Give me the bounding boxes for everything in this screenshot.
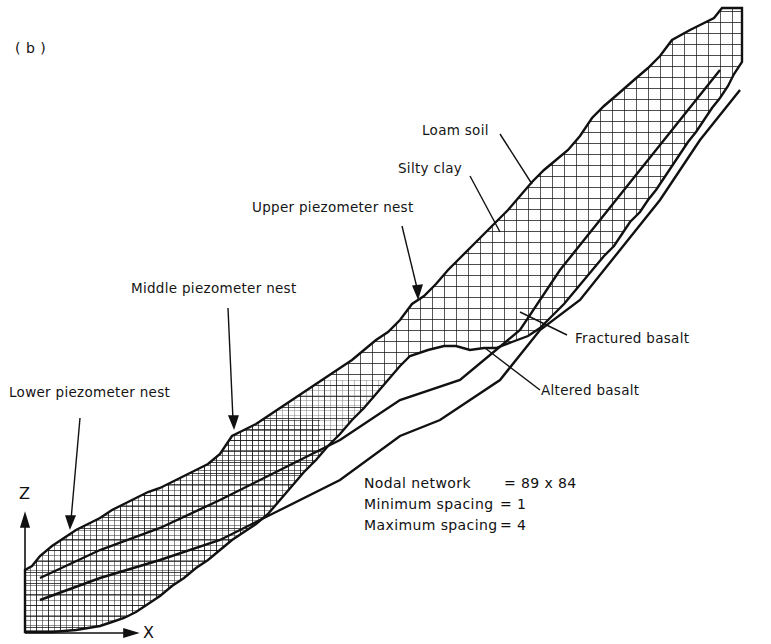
z-axis-label: Z [19, 484, 30, 503]
label-silty-clay: Silty clay [398, 160, 462, 176]
label-fractured-basalt: Fractured basalt [575, 330, 689, 346]
info-key: Maximum spacing [364, 515, 500, 536]
info-key: Nodal network [364, 473, 504, 494]
mesh-grid [0, 0, 771, 644]
info-row-minimum-spacing: Minimum spacing = 1 [364, 494, 577, 515]
info-value: = 89 x 84 [504, 473, 577, 494]
info-key: Minimum spacing [364, 494, 500, 515]
x-axis-label: X [143, 623, 154, 642]
panel-label: ( b ) [15, 40, 46, 56]
nodal-mesh-diagram [0, 0, 771, 644]
network-info: Nodal network = 89 x 84 Minimum spacing … [364, 473, 577, 536]
label-loam-soil: Loam soil [422, 122, 489, 138]
info-row-nodal-network: Nodal network = 89 x 84 [364, 473, 577, 494]
label-middle-piezometer-nest: Middle piezometer nest [131, 280, 297, 296]
label-lower-piezometer-nest: Lower piezometer nest [9, 384, 170, 400]
info-row-maximum-spacing: Maximum spacing = 4 [364, 515, 577, 536]
label-upper-piezometer-nest: Upper piezometer nest [252, 199, 414, 215]
label-altered-basalt: Altered basalt [541, 382, 639, 398]
info-value: = 1 [500, 494, 526, 515]
info-value: = 4 [500, 515, 526, 536]
